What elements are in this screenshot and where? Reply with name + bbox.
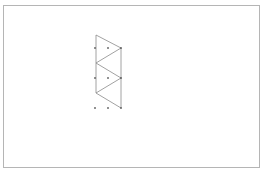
triangle-edge — [96, 78, 121, 93]
grid-point — [94, 47, 96, 49]
grid-point — [107, 47, 109, 49]
diagram-canvas — [0, 0, 265, 174]
grid-point — [120, 107, 122, 109]
triangle-edge — [96, 35, 121, 48]
grid-point — [94, 77, 96, 79]
triangle-edge — [96, 63, 121, 78]
grid-point — [107, 107, 109, 109]
grid-point — [120, 77, 122, 79]
grid-point — [120, 47, 122, 49]
triangle-edge — [96, 48, 121, 63]
grid-point — [94, 107, 96, 109]
grid-point — [107, 77, 109, 79]
triangle-edge — [96, 93, 121, 108]
